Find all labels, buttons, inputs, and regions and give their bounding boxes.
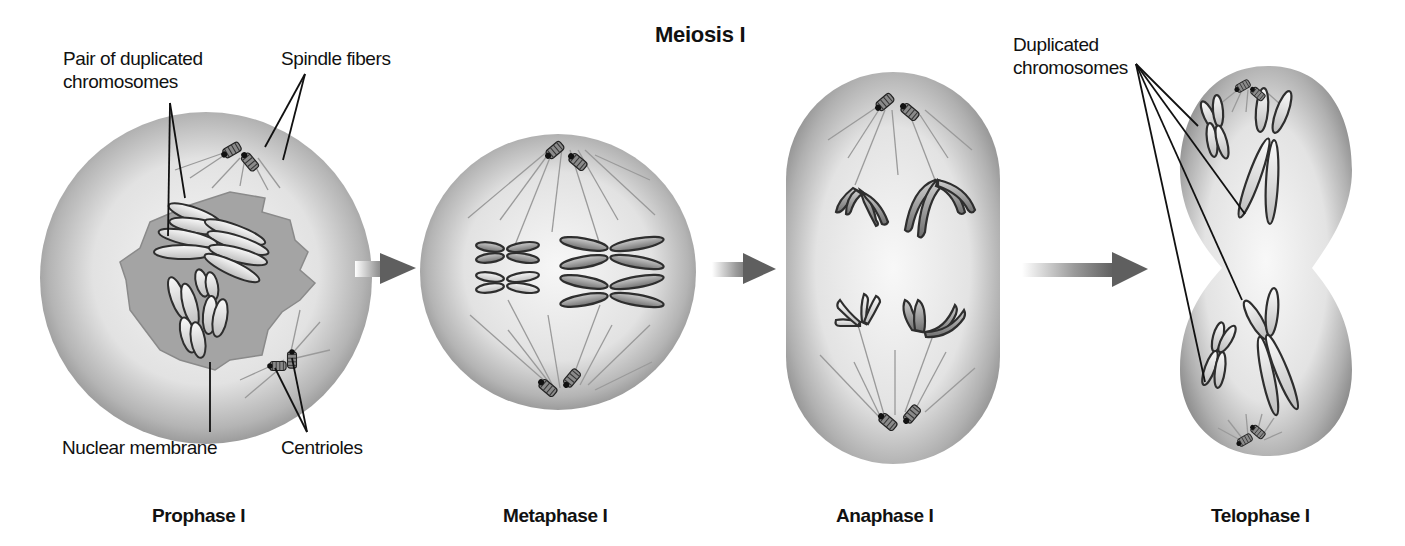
stage-label-prophase: Prophase I — [152, 505, 245, 527]
label-pair-of-duplicated-chromosomes: Pair of duplicated chromosomes — [63, 47, 203, 93]
stage-label-metaphase: Metaphase I — [503, 505, 607, 527]
meiosis-diagram — [0, 0, 1405, 546]
prophase-cell — [40, 112, 372, 444]
label-nuclear-membrane: Nuclear membrane — [62, 436, 217, 459]
stage-label-anaphase: Anaphase I — [836, 505, 933, 527]
telophase-cell — [1180, 66, 1352, 456]
label-centrioles: Centrioles — [281, 436, 363, 459]
label-spindle-fibers: Spindle fibers — [281, 47, 391, 70]
anaphase-cell — [786, 72, 1000, 464]
arrow-icon — [1022, 252, 1148, 287]
metaphase-cell — [420, 134, 696, 410]
label-duplicated-chromosomes: Duplicated chromosomes — [1013, 33, 1128, 79]
stage-label-telophase: Telophase I — [1211, 505, 1310, 527]
arrow-icon — [712, 253, 776, 284]
diagram-title: Meiosis I — [655, 22, 745, 48]
